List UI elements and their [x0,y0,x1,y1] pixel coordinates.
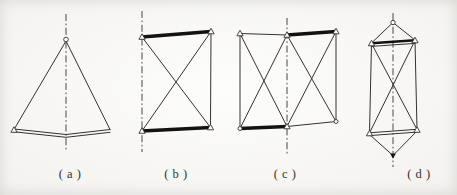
figure-d-bottom-apex-node [390,153,396,158]
figure-b-right-edge [211,32,212,128]
structural-schemes-drawing [0,0,457,195]
figure-d-top-apex-node [391,20,395,24]
figure-c-bottom-left-node [238,127,242,131]
figure-d-top-apex-left-leg [372,23,394,44]
figure-d-label: ( d ) [389,167,449,182]
figure-d-top-apex-right-leg [393,23,415,41]
figure-d-diagonal-1 [372,44,418,130]
figure-c-diagonal-1 [240,34,287,127]
figure-a-label: ( a ) [40,167,100,182]
figure-d-left-edge [370,44,372,134]
figure-d-drawing [366,13,420,167]
figure-a-drawing [11,14,110,152]
figure-c-diagonal-2 [240,35,287,129]
figure-c-top-left-node [237,30,243,36]
figure-a-apex-node [64,37,69,42]
figure-b-drawing [139,11,214,152]
figure-c-top-left-chord [240,34,287,36]
figure-d-top-chord [372,40,416,43]
figure-a-right-leg [66,41,110,130]
figure-c-bottom-right-chord [287,122,336,127]
figure-b-top-chord [142,32,211,38]
figure-c-top-right-chord [287,32,336,36]
figure-c-bottom-left-chord [240,127,287,129]
figure-c-diagonal-4 [287,32,336,127]
figure-b-bottom-chord [142,128,211,132]
figure-b-diagonal-2 [142,32,211,132]
figure-d-diagonal-2 [370,41,416,134]
figure-d-right-edge [415,41,417,130]
figure-c-label: ( c ) [255,167,315,182]
figure-d-bottom-apex-left-leg [370,135,394,156]
diagram-page: ( a ) ( b ) ( c ) ( d ) [0,0,457,195]
figure-d-bottom-apex-right-leg [393,131,417,156]
figure-a-left-leg [14,41,66,130]
figure-b-label: ( b ) [146,167,206,182]
figure-c-drawing [237,18,339,154]
figure-c-bottom-right-node [334,120,338,124]
